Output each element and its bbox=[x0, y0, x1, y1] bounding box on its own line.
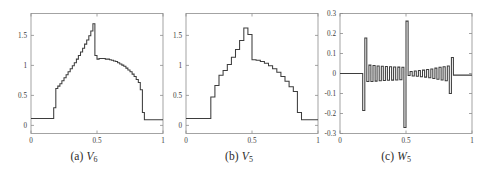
panel-a-axis-frame bbox=[31, 14, 163, 134]
panel-c-ytick-0: -0.3 bbox=[325, 130, 337, 138]
panel-b-axis-frame bbox=[186, 14, 318, 134]
panel-a-data-line bbox=[31, 24, 163, 120]
panel-a-xtick-0: 0 bbox=[29, 137, 33, 145]
panel-a-y-ticks bbox=[31, 35, 163, 125]
panel-b-plot: 0 0.5 1 1.5 0 0.5 1 bbox=[155, 0, 323, 150]
panel-b: 0 0.5 1 1.5 0 0.5 1 bbox=[155, 0, 323, 175]
panel-c-ytick-1: -0.2 bbox=[325, 110, 337, 118]
panel-a-x-tick-labels: 0 0.5 1 bbox=[29, 137, 165, 145]
panel-a-y-tick-labels: 0 0.5 1 1.5 bbox=[18, 32, 27, 130]
panel-c-caption: (c) W5 bbox=[312, 150, 480, 164]
panel-a-caption: (a) V6 bbox=[0, 150, 168, 164]
panel-a-ytick-2: 1 bbox=[23, 62, 27, 70]
panel-a-ytick-0: 0 bbox=[23, 122, 27, 130]
panel-c-ytick-5: 0.2 bbox=[327, 30, 336, 38]
panel-c-xtick-0: 0 bbox=[338, 137, 342, 145]
panel-a-ytick-3: 1.5 bbox=[18, 32, 27, 40]
panel-c: -0.3 -0.2 -0.1 0 0.1 0.2 0.3 bbox=[312, 0, 480, 175]
panel-b-caption-prefix: (b) bbox=[225, 150, 239, 162]
panel-c-caption-subscript: 5 bbox=[407, 155, 411, 164]
panel-c-ytick-2: -0.1 bbox=[325, 90, 337, 98]
panel-b-caption-subscript: 5 bbox=[249, 155, 253, 164]
panel-b-svg: 0 0.5 1 1.5 0 0.5 1 bbox=[155, 0, 323, 150]
figure-container: 0 0.5 1 1.5 0 0.5 1 bbox=[0, 0, 480, 175]
panel-c-caption-prefix: (c) bbox=[381, 150, 394, 162]
panel-b-xtick-1: 0.5 bbox=[248, 137, 257, 145]
panel-c-svg: -0.3 -0.2 -0.1 0 0.1 0.2 0.3 bbox=[312, 0, 480, 150]
panel-b-xtick-0: 0 bbox=[184, 137, 188, 145]
panel-a-caption-prefix: (a) bbox=[70, 150, 83, 162]
panel-b-x-tick-labels: 0 0.5 1 bbox=[184, 137, 320, 145]
panel-b-ytick-3: 1.5 bbox=[173, 32, 182, 40]
panel-a-ytick-1: 0.5 bbox=[18, 92, 27, 100]
panel-c-caption-symbol: W bbox=[397, 150, 407, 162]
panel-b-caption: (b) V5 bbox=[155, 150, 323, 164]
panel-b-ytick-0: 0 bbox=[178, 122, 182, 130]
panel-a: 0 0.5 1 1.5 0 0.5 1 bbox=[0, 0, 168, 175]
panel-c-ytick-6: 0.3 bbox=[327, 10, 336, 18]
panel-c-xtick-1: 0.5 bbox=[402, 137, 411, 145]
panel-c-ytick-3: 0 bbox=[332, 70, 336, 78]
panel-a-caption-symbol: V bbox=[86, 150, 93, 162]
panel-b-x-ticks bbox=[186, 14, 318, 134]
panel-c-xtick-2: 1 bbox=[470, 137, 474, 145]
panel-a-x-ticks bbox=[31, 14, 163, 134]
panel-a-plot: 0 0.5 1 1.5 0 0.5 1 bbox=[0, 0, 168, 150]
panel-b-data-line bbox=[186, 28, 318, 120]
panel-b-caption-symbol: V bbox=[242, 150, 249, 162]
panel-c-data-line bbox=[340, 21, 472, 127]
panel-c-y-tick-labels: -0.3 -0.2 -0.1 0 0.1 0.2 0.3 bbox=[325, 10, 337, 138]
panel-c-x-tick-labels: 0 0.5 1 bbox=[338, 137, 474, 145]
panel-c-ytick-4: 0.1 bbox=[327, 50, 336, 58]
panel-b-y-tick-labels: 0 0.5 1 1.5 bbox=[173, 32, 182, 130]
panel-a-caption-subscript: 6 bbox=[94, 155, 98, 164]
panel-b-ytick-2: 1 bbox=[178, 62, 182, 70]
panel-c-plot: -0.3 -0.2 -0.1 0 0.1 0.2 0.3 bbox=[312, 0, 480, 150]
panel-b-ytick-1: 0.5 bbox=[173, 92, 182, 100]
panel-a-svg: 0 0.5 1 1.5 0 0.5 1 bbox=[0, 0, 168, 150]
panel-a-xtick-1: 0.5 bbox=[93, 137, 102, 145]
